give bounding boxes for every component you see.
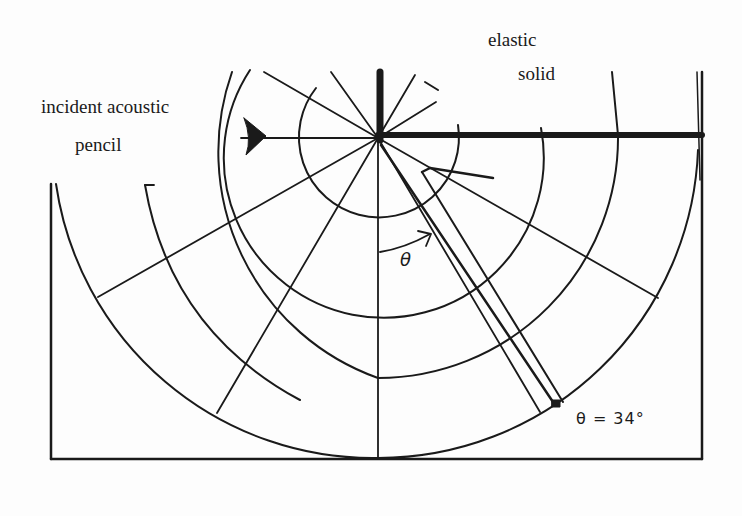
incident-arrowhead-icon (244, 118, 266, 155)
incident-label-line1: incident acoustic (41, 97, 169, 116)
diagram-graphic (0, 0, 742, 516)
angle-annotation: θ = 34° (576, 409, 645, 428)
theta-symbol: θ (400, 249, 411, 270)
medium-label-line1: elastic (488, 30, 537, 49)
medium-label-line2: solid (518, 64, 555, 83)
refracted-beam (381, 145, 563, 407)
acoustic-refraction-diagram: incident acoustic pencil elastic solid θ… (0, 0, 742, 516)
incident-label-line2: pencil (75, 135, 121, 154)
